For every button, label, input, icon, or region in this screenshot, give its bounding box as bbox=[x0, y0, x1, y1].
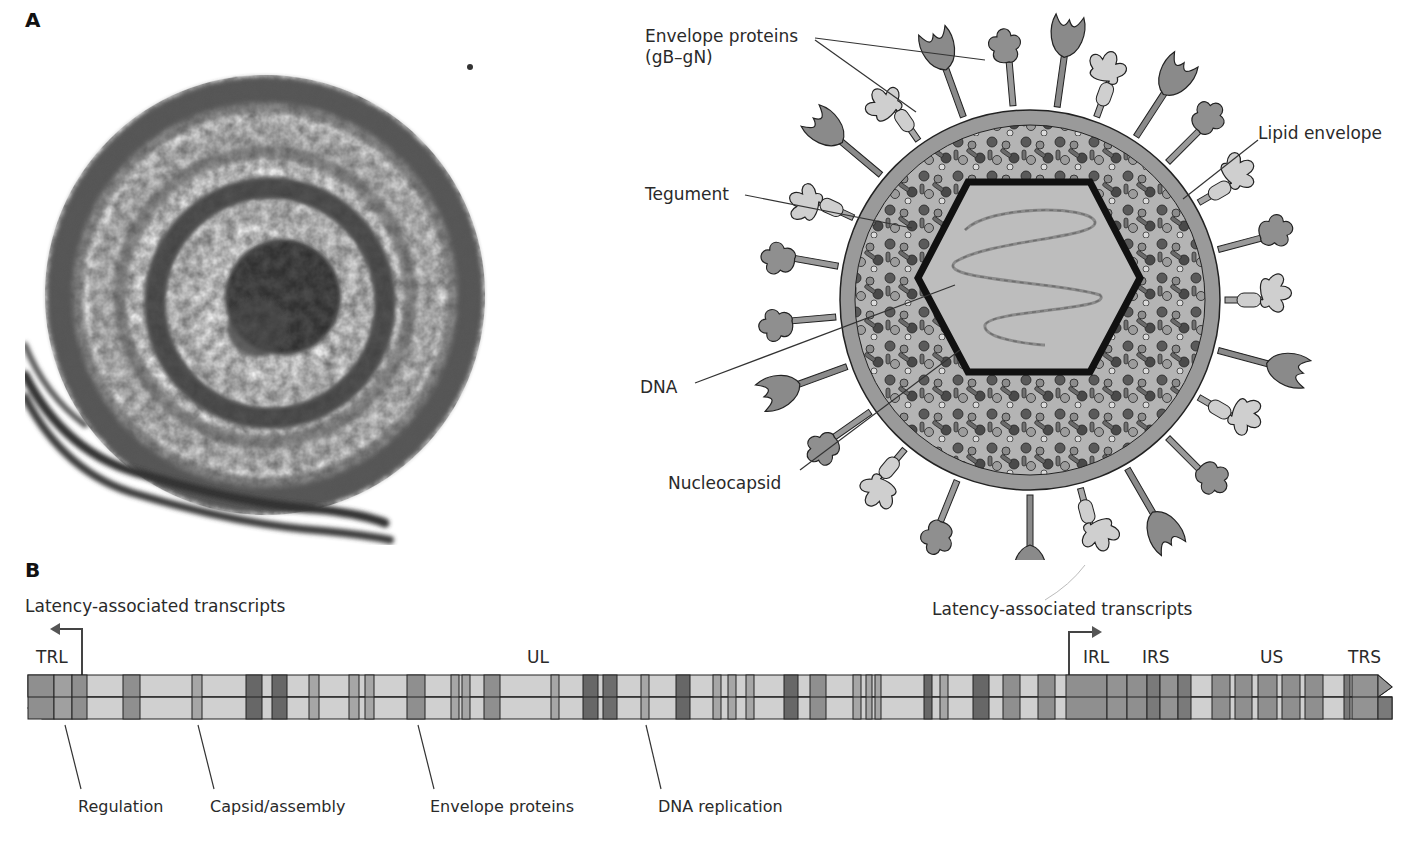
gene-class-capsid-assembly: Capsid/assembly bbox=[210, 798, 345, 816]
gene-class-envelope-proteins: Envelope proteins bbox=[430, 798, 574, 816]
label-lipid-envelope: Lipid envelope bbox=[1258, 124, 1382, 144]
label-envelope-proteins: Envelope proteins bbox=[645, 27, 798, 47]
label-dna: DNA bbox=[640, 378, 677, 398]
label-nucleocapsid: Nucleocapsid bbox=[668, 474, 781, 494]
gene-class-regulation: Regulation bbox=[78, 798, 163, 816]
gene-class-dna-replication: DNA replication bbox=[658, 798, 783, 816]
label-envelope-proteins-sub: (gB–gN) bbox=[645, 48, 713, 68]
label-tegument: Tegument bbox=[645, 185, 729, 205]
